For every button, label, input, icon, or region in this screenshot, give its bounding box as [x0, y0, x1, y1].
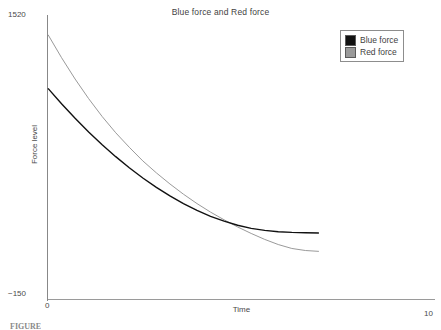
legend-swatch-red-force [345, 47, 356, 58]
legend-swatch-blue-force [345, 35, 356, 46]
legend-label-blue-force: Blue force [360, 35, 398, 45]
figure-caption: FIGURE [10, 322, 41, 330]
series-line-red [48, 35, 319, 252]
series-line-blue [48, 88, 319, 233]
y-axis-tick-max: 1520 [8, 10, 26, 19]
y-axis-tick-min: −150 [8, 289, 26, 298]
legend-item-red-force: Red force [345, 46, 398, 58]
legend: Blue force Red force [340, 30, 404, 62]
y-axis-title: Force level [30, 105, 39, 185]
figure-container: Blue force and Red force 1520 −150 0 10 … [0, 0, 441, 330]
legend-label-red-force: Red force [360, 47, 397, 57]
x-axis-title: Time [48, 305, 435, 314]
legend-item-blue-force: Blue force [345, 34, 398, 46]
